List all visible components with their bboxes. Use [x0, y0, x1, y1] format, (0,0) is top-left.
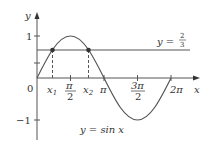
intersection-point-x2	[86, 48, 91, 53]
three-pi-half-num: 3π	[131, 80, 144, 91]
x1-label: x1	[47, 84, 57, 97]
line-label-num: 2	[180, 32, 184, 40]
origin-label: 0	[27, 83, 33, 94]
three-pi-half-den: 2	[135, 91, 141, 102]
y-tick-label-1: 1	[26, 31, 32, 42]
y-axis-arrow-icon	[35, 12, 40, 19]
x-axis-arrow-icon	[193, 76, 200, 81]
x-axis-label: x	[194, 84, 200, 95]
line-label: y =	[156, 36, 174, 47]
pi-half-num: π	[65, 80, 73, 91]
intersection-point-x1	[50, 48, 55, 53]
chart-canvas: y 1 0 −1 x1 π 2 x2 π 3π 2 2π x y = 2 3 y…	[0, 0, 212, 149]
y-axis-label: y	[24, 10, 31, 21]
curve-label: y = sin x	[79, 124, 124, 135]
pi-half-den: 2	[67, 91, 73, 102]
pi-label: π	[99, 84, 107, 95]
x2-label: x2	[83, 84, 94, 97]
two-pi-label: 2π	[169, 84, 183, 95]
y-tick-label-neg1: −1	[16, 115, 31, 126]
line-label-den: 3	[180, 41, 184, 49]
